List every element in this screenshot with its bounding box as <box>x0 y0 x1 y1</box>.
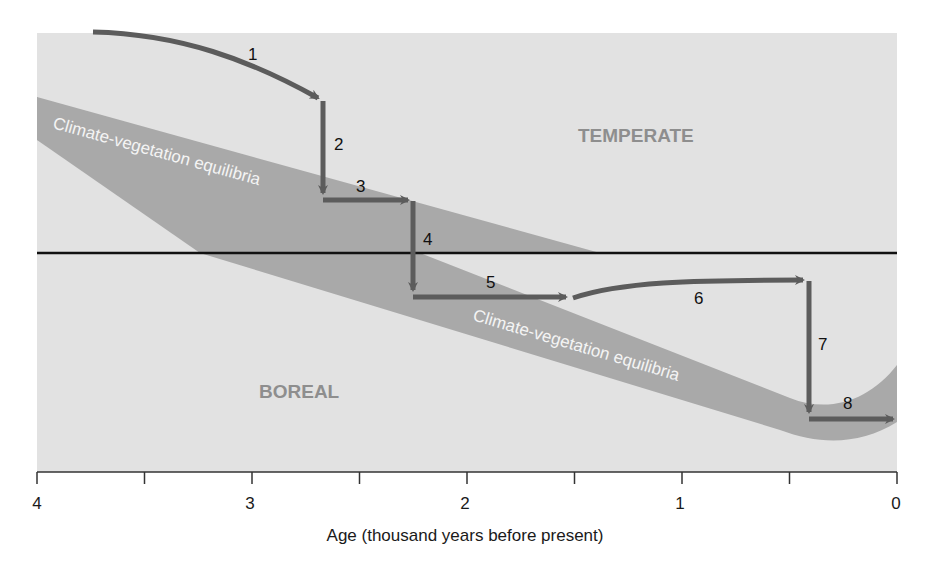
tick-label-2: 2 <box>460 494 469 513</box>
step-label-6: 6 <box>694 289 703 308</box>
tick-label-3: 3 <box>245 494 254 513</box>
tick-label-4: 4 <box>32 494 41 513</box>
tick-label-0: 0 <box>891 494 900 513</box>
x-axis-title: Age (thousand years before present) <box>327 526 604 545</box>
region-label-boreal: BOREAL <box>259 381 340 402</box>
vegetation-lag-diagram: TEMPERATE BOREAL Climate-vegetation equi… <box>0 0 931 576</box>
step-label-1: 1 <box>248 45 257 64</box>
x-axis <box>37 472 897 484</box>
step-label-2: 2 <box>334 135 343 154</box>
step-label-7: 7 <box>818 335 827 354</box>
region-label-temperate: TEMPERATE <box>578 125 694 146</box>
step-label-4: 4 <box>423 230 432 249</box>
step-label-8: 8 <box>843 394 852 413</box>
step-label-5: 5 <box>486 273 495 292</box>
tick-label-1: 1 <box>675 494 684 513</box>
step-label-3: 3 <box>356 177 365 196</box>
